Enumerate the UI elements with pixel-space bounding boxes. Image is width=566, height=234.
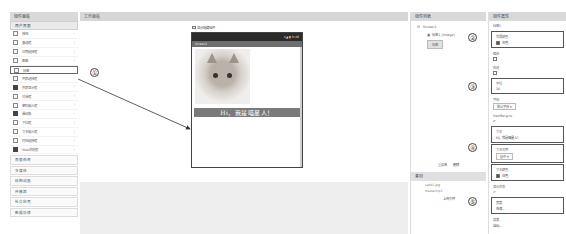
property-color[interactable]: 灰色 [496,40,559,45]
help-icon[interactable]: ? [73,50,75,54]
phone-scrollbar[interactable] [300,47,302,167]
media-file[interactable]: cat01.jpg [411,183,486,187]
palette-item[interactable]: 时间选择框 ? [10,137,78,146]
label-icon [14,68,19,73]
help-icon[interactable]: ? [73,112,75,116]
palette-category[interactable]: 数据存储 [10,208,78,218]
help-icon[interactable]: ? [73,130,75,134]
palette-item-label: 下拉框 [22,120,31,125]
webviewer-icon [13,147,18,152]
property-row: 文本对齐居中 ▾ [491,144,564,163]
help-icon[interactable]: ? [73,103,75,107]
property-label: 字体 [493,97,562,102]
palette-item[interactable]: 文本输入框 ? [10,128,78,137]
palette-category[interactable]: 绘图动画 [10,176,78,186]
palette-category[interactable]: 界面布局 [10,155,78,165]
palette-item[interactable]: 图像 ? [10,57,78,66]
palette-item[interactable]: 滑动条 ? [10,110,78,119]
palette-category[interactable]: 传感器 [10,187,78,197]
help-icon[interactable]: ? [73,121,75,125]
help-icon[interactable]: ? [73,85,75,89]
palette-section-user-interface[interactable]: 用户界面 [10,21,78,30]
rename-button[interactable]: 重命名 [438,163,447,167]
palette-item[interactable]: Web浏览框 ? [10,146,78,155]
tree-child-label: 标签1 (Image) [432,32,455,37]
properties-title: 组件属性 [489,12,566,21]
component-actions: 重命名 删除 [411,162,486,167]
property-value[interactable]: Hi，我是喵星人！ [496,135,559,140]
property-label: 背景颜色 [496,34,559,39]
property-row: 文本颜色白色 [491,164,564,181]
tree-root-label: Screen1 [423,25,437,29]
palette-item-label: 日期选择框 [22,49,37,54]
label-component[interactable]: Hi，我是喵星人！ [194,108,300,117]
property-row: 字号16 [491,78,564,94]
cat-eye-left [213,73,218,78]
palette-item-label: 列表显示框 [22,85,37,90]
palette-item[interactable]: 列表显示框 ? [10,83,78,92]
property-color[interactable]: 白色 [496,173,559,178]
components-title: 组件列表 [411,12,486,21]
property-value[interactable]: 16 [496,87,559,91]
palette-item[interactable]: 标签 ? [10,66,78,75]
property-label: 高度 [493,217,562,222]
help-icon[interactable]: ? [73,41,75,45]
delete-button[interactable]: 删除 [453,163,459,167]
media-file[interactable]: meow.mp3 [411,189,486,193]
property-select[interactable]: 默认字体 ▾ [493,103,516,110]
password-icon [13,103,18,108]
property-row: 高度自动... [489,215,566,230]
slider-icon [13,111,18,116]
palette-item[interactable]: 下拉框 ? [10,119,78,128]
property-value[interactable]: ✔ [493,119,562,123]
palette-item-label: 标签 [23,68,29,73]
property-row: 背景颜色灰色 [491,31,564,48]
property-row: 斜体 [489,63,566,77]
notifier-icon [13,94,18,99]
checkbox-box[interactable] [192,26,196,30]
color-swatch-icon [496,174,500,178]
cat-ear-right [229,53,239,63]
help-icon[interactable]: ? [73,32,75,36]
spinner-icon [13,120,18,125]
listpicker-icon [13,76,18,81]
phone-status-bar: ▾◢ ▮ 9:48 [192,33,302,41]
timepicker-icon [13,138,18,143]
tree-label-item[interactable]: 标签 [427,40,443,49]
palette-item-label: 文本输入框 [22,129,37,134]
cat-image[interactable] [195,49,250,104]
palette-item-label: Web浏览框 [22,147,38,152]
palette-item[interactable]: 按钮 ? [10,30,78,39]
collapse-icon[interactable]: ⊟ [417,25,420,29]
help-icon[interactable]: ? [72,68,74,72]
help-icon[interactable]: ? [73,148,75,152]
help-icon[interactable]: ? [73,94,75,98]
property-label: 文本颜色 [496,167,559,172]
screen-title: Screen1 [192,41,302,47]
checkbox-icon [13,40,18,45]
tree-root[interactable]: ⊟ Screen1 [417,25,480,29]
help-icon[interactable]: ? [73,76,75,80]
property-value[interactable]: 充满... [496,206,559,211]
help-icon[interactable]: ? [73,59,75,63]
property-checkbox[interactable] [493,57,497,61]
palette-item[interactable]: 复选框 ? [10,39,78,48]
property-value: 居中 [500,155,506,159]
palette-item[interactable]: 对话框 ? [10,92,78,101]
palette-item[interactable]: 日期选择框 ? [10,48,78,57]
palette-item[interactable]: 列表选择框 ? [10,74,78,83]
help-icon[interactable]: ? [73,139,75,143]
palette-item[interactable]: 密码输入框 ? [10,101,78,110]
show-hidden-components-checkbox[interactable]: 显示隐藏组件 [192,25,215,30]
property-label: 文本 [496,129,559,134]
property-value[interactable]: 自动... [493,223,562,228]
property-value[interactable]: ✔ [493,190,562,194]
palette-category[interactable]: 多媒体 [10,166,78,176]
property-checkbox[interactable] [493,71,497,75]
textbox-icon [13,129,18,134]
media-title: 素材 [411,172,486,181]
property-label: 斜体 [493,65,562,70]
palette-category[interactable]: 社交应用 [10,197,78,207]
property-select[interactable]: 居中 ▾ [496,153,513,160]
datepicker-icon [13,49,18,54]
